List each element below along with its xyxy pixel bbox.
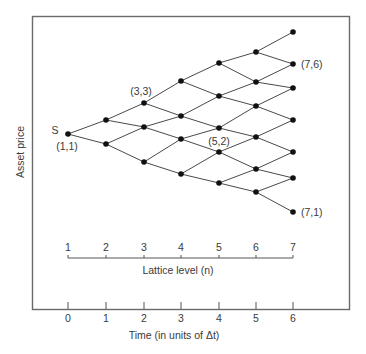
lattice-edge [256,88,293,106]
lattice-node [290,175,296,181]
lattice-node [290,61,296,67]
lattice-node [253,189,259,195]
lattice-diagram: Asset price S (1,1) (3,3) (5,2) (7,6) (7… [0,0,366,354]
time-tick-label: 5 [253,312,259,324]
lattice-edge [144,116,181,127]
lattice-edge [106,127,144,144]
lattice-edge [256,152,293,169]
lattice-edge [256,82,293,88]
lattice-axis-label: Lattice level (n) [142,264,213,276]
lattice-node [253,166,259,172]
time-axis: 0123456 Time (in units of Δt) [65,302,296,341]
node-label-5-2: (5,2) [208,135,230,147]
lattice-edge [256,120,293,137]
lattice-tick-label: 1 [65,241,71,253]
lattice-level-axis: 1234567 Lattice level (n) [65,241,296,276]
lattice-node [65,131,71,137]
lattice-edge [219,152,256,169]
lattice-node [290,85,296,91]
lattice-edge [256,178,293,192]
lattice-edge [181,96,219,116]
node-label-3-3: (3,3) [130,85,152,97]
lattice-tick-label: 2 [103,241,109,253]
time-tick-label: 3 [178,312,184,324]
lattice-edge [219,52,256,63]
node-label-7-1: (7,1) [301,206,323,218]
lattice-node [253,79,259,85]
lattice-edge [256,52,293,64]
lattice-node [178,171,184,177]
lattice-edge [256,192,293,212]
lattice-tick-label: 6 [253,241,259,253]
lattice-node [103,141,109,147]
lattice-edge [219,63,256,82]
lattice-node [178,113,184,119]
lattice-edge [181,116,219,128]
lattice-node [141,159,147,165]
node-label-7-6: (7,6) [301,58,323,70]
time-axis-label: Time (in units of Δt) [129,329,220,341]
lattice-edge [144,103,181,116]
lattice-edge [256,106,293,120]
lattice-node [253,49,259,55]
lattice-edge [219,169,256,183]
lattice-edge [144,162,181,174]
lattice-node [290,149,296,155]
node-label-1-1: (1,1) [56,140,78,152]
time-tick-label: 4 [216,312,222,324]
lattice-edge [219,96,256,106]
start-price-label: S [51,124,58,136]
lattice-tick-label: 5 [216,241,222,253]
lattice-node [253,103,259,109]
lattice-node [141,100,147,106]
lattice-edge [256,169,293,178]
time-tick-label: 2 [141,312,147,324]
time-tick-label: 6 [290,312,296,324]
lattice-edge [106,144,144,162]
lattice-node [216,60,222,66]
lattice-edge [256,137,293,152]
lattice-tick-label: 3 [141,241,147,253]
lattice-node [216,125,222,131]
lattice-edge [181,81,219,96]
lattice-tick-label: 7 [290,241,296,253]
y-axis-label: Asset price [14,126,26,178]
lattice-edge [256,32,293,52]
lattice-node [141,124,147,130]
lattice-edge [181,174,219,183]
lattice-node [290,117,296,123]
lattice-edge [256,64,293,82]
time-tick-label: 1 [103,312,109,324]
lattice-node [178,78,184,84]
lattice-node [216,93,222,99]
lattice-node [290,29,296,35]
lattice-node [253,134,259,140]
lattice-node [290,209,296,215]
lattice-edge [219,82,256,96]
lattice-edge [68,120,106,134]
lattice-edge [219,183,256,192]
lattice-edge [181,63,219,81]
lattice-tick-label: 4 [178,241,184,253]
lattice-edges [68,32,293,212]
lattice-edge [106,120,144,127]
lattice-node [216,180,222,186]
lattice-edge [144,139,181,162]
lattice-edge [106,103,144,120]
lattice-edge [181,152,219,174]
time-tick-label: 0 [65,312,71,324]
lattice-node [103,117,109,123]
lattice-node [216,149,222,155]
lattice-node [178,136,184,142]
lattice-edge [219,106,256,128]
lattice-edge [144,127,181,139]
